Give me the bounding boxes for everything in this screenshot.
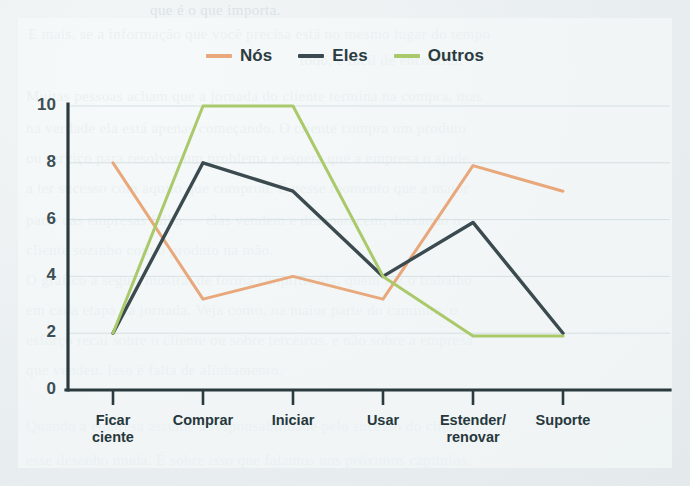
series-lines <box>113 106 563 336</box>
series-line-nós <box>113 163 563 299</box>
y-tick-label-6: 6 <box>16 209 56 229</box>
axis-ticks <box>113 390 563 405</box>
y-tick-label-4: 4 <box>16 265 56 285</box>
scanned-page: que é o que importa. E mais, se a inform… <box>0 0 690 486</box>
y-tick-label-8: 8 <box>16 152 56 172</box>
y-tick-label-10: 10 <box>16 95 56 115</box>
x-tick-label-5: Suporte <box>508 412 618 429</box>
series-line-outros <box>113 106 563 336</box>
y-tick-label-2: 2 <box>16 322 56 342</box>
y-tick-label-0: 0 <box>16 379 56 399</box>
